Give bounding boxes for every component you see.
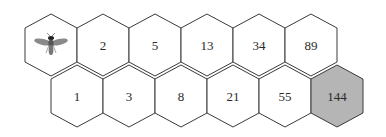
hex-cell: 1 — [51, 65, 103, 127]
hex-cell: 5 — [129, 14, 181, 76]
hex-cell-number: 21 — [227, 89, 240, 104]
hex-cell-number: 13 — [201, 38, 214, 53]
hex-cell: 8 — [155, 65, 207, 127]
hex-cell-number: 8 — [178, 89, 185, 104]
hex-cell: 55 — [259, 65, 311, 127]
hex-cell-number: 1 — [74, 89, 81, 104]
hex-cell-number: 3 — [126, 89, 133, 104]
hex-cell: 2 — [77, 14, 129, 76]
hex-cell: 89 — [285, 14, 337, 76]
hex-cell-number: 2 — [100, 38, 107, 53]
hex-cell: 13 — [181, 14, 233, 76]
hex-cell-number: 89 — [305, 38, 318, 53]
hex-cell-number: 34 — [253, 38, 267, 53]
hex-cell — [25, 14, 77, 76]
hex-cell: 3 — [103, 65, 155, 127]
hex-cell-number: 5 — [152, 38, 159, 53]
hex-cell: 34 — [233, 14, 285, 76]
honeycomb-diagram: 251334891382155144 — [0, 0, 386, 137]
hex-cell: 21 — [207, 65, 259, 127]
hex-cell-number: 55 — [279, 89, 292, 104]
hex-cell: 144 — [311, 65, 363, 127]
hex-cell-number: 144 — [327, 89, 347, 104]
